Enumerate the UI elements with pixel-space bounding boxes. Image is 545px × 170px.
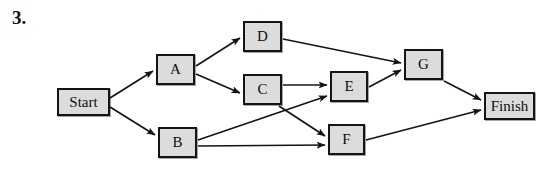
edge-f-to-finish (366, 110, 481, 140)
node-finish[interactable]: Finish (484, 92, 535, 120)
edge-g-to-finish (444, 81, 481, 100)
edge-d-to-g (283, 39, 401, 63)
node-label-f: F (342, 132, 350, 147)
node-label-c: C (257, 82, 267, 97)
node-label-b: B (172, 135, 182, 150)
edge-start-to-b (110, 107, 155, 135)
node-label-e: E (344, 79, 353, 94)
diagram-page: 3. StartABCDEFGFinish (0, 0, 545, 170)
node-c[interactable]: C (243, 74, 282, 105)
node-label-a: A (170, 62, 181, 77)
node-e[interactable]: E (330, 71, 368, 102)
node-label-finish: Finish (491, 98, 529, 113)
node-b[interactable]: B (158, 127, 197, 158)
edge-start-to-a (110, 71, 153, 98)
node-label-start: Start (69, 94, 97, 109)
edge-b-to-f (198, 145, 325, 146)
edge-a-to-c (196, 74, 240, 93)
node-g[interactable]: G (404, 49, 443, 80)
node-label-g: G (418, 57, 429, 72)
edge-e-to-g (369, 70, 401, 87)
node-start[interactable]: Start (57, 88, 110, 116)
node-d[interactable]: D (243, 21, 282, 52)
edge-a-to-d (196, 38, 240, 66)
node-label-d: D (257, 29, 268, 44)
node-f[interactable]: F (328, 124, 365, 155)
node-a[interactable]: A (156, 54, 195, 85)
